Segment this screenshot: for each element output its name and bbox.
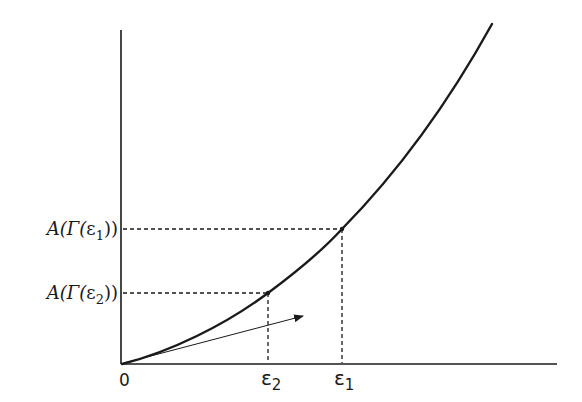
x-tick-epsilon-1: ε1 (334, 366, 354, 394)
convex-curve (122, 24, 492, 364)
y-tick-A-Gamma-epsilon-2: A(Γ(ε2)) (45, 282, 118, 307)
y-tick-A-Gamma-epsilon-1: A(Γ(ε1)) (45, 218, 118, 243)
origin-label: 0 (119, 370, 130, 390)
x-tick-epsilon-2: ε2 (261, 366, 281, 394)
point-epsilon-2 (266, 291, 270, 295)
point-epsilon-1 (340, 227, 344, 231)
diagram-canvas: 0 ε2 ε1 A(Γ(ε1)) A(Γ(ε2)) (0, 0, 582, 402)
tangent-arrow (124, 316, 303, 363)
